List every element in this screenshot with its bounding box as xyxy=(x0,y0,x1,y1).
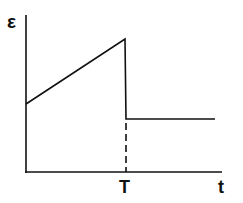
strain-time-diagram: ε T t xyxy=(0,0,243,203)
x-tick-label: T xyxy=(119,177,130,197)
strain-curve xyxy=(26,39,215,119)
y-axis-label: ε xyxy=(7,11,16,32)
x-axis-label: t xyxy=(218,177,224,197)
